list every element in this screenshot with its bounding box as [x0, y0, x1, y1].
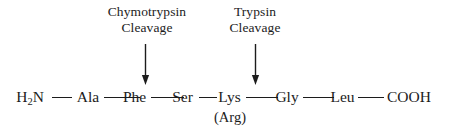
n-terminus-label: H2N — [8, 86, 52, 108]
c-terminus-text: COOH — [387, 88, 431, 105]
peptide-chain: H2N Ala Phe Ser Lys (Arg) Gly — [0, 86, 449, 130]
n-terminus-n: N — [33, 88, 44, 105]
residue-phe: Phe — [118, 86, 151, 108]
trypsin-cleavage-label: Trypsin Cleavage — [155, 4, 355, 36]
residue-lys-alternate-label: (Arg) — [214, 109, 246, 125]
residue-leu: Leu — [327, 86, 358, 108]
c-terminus-label: COOH — [381, 86, 437, 108]
trypsin-cleavage-action: Cleavage — [155, 20, 355, 36]
residue-lys-alternate: (Arg) — [206, 107, 254, 127]
bond-nterm-ala — [52, 97, 72, 98]
residue-ala-label: Ala — [77, 88, 99, 105]
residue-gly-label: Gly — [275, 88, 298, 105]
n-terminus-h: H — [16, 88, 27, 105]
trypsin-enzyme-name: Trypsin — [155, 4, 355, 20]
residue-leu-label: Leu — [330, 88, 354, 105]
residue-ala: Ala — [72, 86, 104, 108]
peptide-cleavage-figure: Chymotrypsin Cleavage Trypsin Cleavage H… — [0, 0, 449, 130]
n-terminus-subscript: 2 — [27, 96, 32, 107]
chymotrypsin-down-arrow-icon — [139, 44, 152, 86]
residue-lys-label: Lys — [218, 88, 240, 105]
residue-lys: Lys — [213, 86, 246, 108]
residue-ser: Ser — [166, 86, 199, 108]
residue-ser-label: Ser — [172, 88, 193, 105]
trypsin-down-arrow-icon — [249, 44, 262, 86]
residue-phe-label: Phe — [123, 88, 146, 105]
residue-gly: Gly — [271, 86, 303, 108]
